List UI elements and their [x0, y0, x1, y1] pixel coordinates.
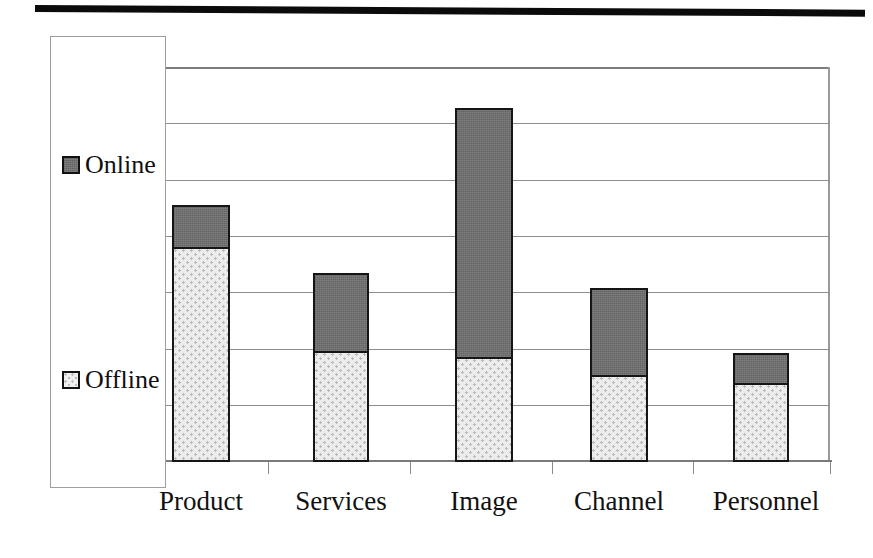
- bar-segment-online[interactable]: [172, 205, 230, 249]
- legend-label-offline: Offline: [85, 366, 160, 394]
- top-divider-rule: [35, 5, 865, 17]
- bar-channel[interactable]: [590, 288, 648, 462]
- axis-tick: [830, 462, 831, 474]
- axis-tick: [410, 462, 411, 474]
- offline-swatch-icon: [62, 371, 80, 389]
- bar-segment-offline[interactable]: [455, 357, 513, 462]
- x-axis-label-channel: Channel: [554, 484, 684, 518]
- chart-figure: Product Services Image Channel Personnel…: [0, 0, 873, 558]
- plot-right-border: [828, 67, 830, 462]
- x-axis-label-personnel: Personnel: [696, 484, 836, 518]
- bar-segment-online[interactable]: [590, 288, 648, 377]
- bar-services[interactable]: [313, 273, 369, 462]
- bar-segment-online[interactable]: [313, 273, 369, 353]
- bar-product[interactable]: [172, 205, 230, 462]
- bar-segment-offline[interactable]: [590, 375, 648, 462]
- bar-segment-offline[interactable]: [172, 247, 230, 462]
- online-swatch-icon: [62, 156, 80, 174]
- axis-tick: [552, 462, 553, 474]
- bar-segment-online[interactable]: [455, 108, 513, 359]
- bar-image[interactable]: [455, 108, 513, 462]
- x-axis-label-image: Image: [419, 484, 549, 518]
- x-axis-label-product: Product: [136, 484, 266, 518]
- bar-personnel[interactable]: [733, 353, 789, 462]
- chart-legend: Online Offline: [50, 36, 166, 488]
- legend-label-online: Online: [85, 151, 156, 179]
- bar-segment-online[interactable]: [733, 353, 789, 385]
- bar-segment-offline[interactable]: [313, 351, 369, 462]
- legend-item-online[interactable]: Online: [62, 151, 156, 179]
- axis-tick: [268, 462, 269, 474]
- axis-tick: [693, 462, 694, 474]
- legend-item-offline[interactable]: Offline: [62, 366, 160, 394]
- bar-segment-offline[interactable]: [733, 383, 789, 462]
- x-axis-label-services: Services: [276, 484, 406, 518]
- plot-top-border: [165, 67, 830, 69]
